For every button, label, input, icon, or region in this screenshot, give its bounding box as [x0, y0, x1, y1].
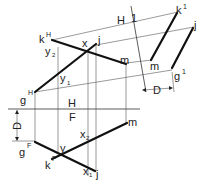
label-m1: m — [150, 60, 159, 72]
fold-label-h: H — [68, 97, 76, 109]
label-k1-sup: 1 — [183, 3, 187, 10]
label-y2: y — [45, 45, 51, 57]
label-x1-sub: 1 — [89, 172, 93, 178]
label-g-sup: H — [28, 89, 33, 96]
label-k: k — [39, 33, 45, 45]
label-g: g — [20, 94, 26, 106]
fold-label-f: F — [69, 111, 76, 123]
projection-lines-vertical — [35, 45, 126, 176]
label-gf-sup: F — [27, 142, 31, 149]
fold-label-1: 1 — [131, 12, 137, 24]
line-km-aux — [151, 13, 177, 60]
label-kf-sup: F — [52, 155, 56, 162]
label-j1: j — [193, 19, 196, 31]
line-km-top — [52, 40, 126, 64]
label-k-sup: H — [46, 31, 51, 38]
label-d-aux: D — [153, 84, 161, 96]
label-kf: k — [45, 159, 51, 171]
diagram-svg: k H y 2 x j y 1 m g H H F H 1 k 1 j m g … — [0, 0, 208, 190]
label-y1: y — [60, 72, 66, 84]
label-y2-sub: 2 — [52, 52, 56, 58]
label-x-top: x — [82, 37, 88, 49]
label-g1: g — [174, 70, 180, 82]
label-k1: k — [176, 4, 182, 16]
label-g1-sup: 1 — [182, 68, 186, 75]
fold-label-h-aux: H — [117, 14, 125, 26]
label-y1-sub: 1 — [67, 80, 71, 86]
label-j-front: j — [95, 168, 98, 180]
label-d-front: D — [11, 122, 23, 130]
label-m-top: m — [120, 54, 129, 66]
label-y-front: y — [60, 142, 66, 154]
line-jg-aux — [172, 28, 193, 68]
label-m-front: m — [128, 116, 137, 128]
label-j-top: j — [97, 34, 100, 46]
descriptive-geometry-diagram: k H y 2 x j y 1 m g H H F H 1 k 1 j m g … — [0, 0, 208, 190]
label-gf: g — [19, 146, 25, 158]
